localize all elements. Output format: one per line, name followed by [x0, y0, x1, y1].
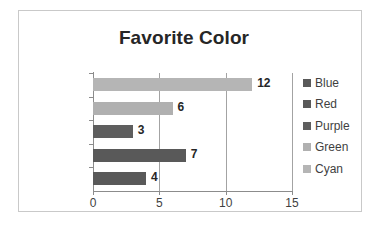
- x-axis-tick-label: 15: [285, 196, 298, 210]
- legend-swatch-icon: [303, 79, 311, 87]
- plot-area: 05101512Cyan6Green3Purple7Red4Blue: [93, 73, 292, 191]
- bar-value-label: 7: [191, 147, 198, 161]
- y-axis-tick: [89, 120, 93, 121]
- y-axis-tick: [89, 73, 93, 74]
- legend-item-red[interactable]: Red: [303, 94, 359, 116]
- bar-cyan[interactable]: [93, 78, 252, 91]
- chart-legend: BlueRedPurpleGreenCyan: [303, 72, 359, 180]
- y-axis-tick: [89, 167, 93, 168]
- legend-item-purple[interactable]: Purple: [303, 115, 359, 137]
- bar-purple[interactable]: [93, 125, 133, 138]
- legend-item-label: Red: [315, 97, 337, 111]
- bar-row: 6Green: [93, 97, 292, 121]
- legend-item-blue[interactable]: Blue: [303, 72, 359, 94]
- bar-value-label: 3: [138, 123, 145, 137]
- legend-swatch-icon: [303, 143, 311, 151]
- bar-row: 7Red: [93, 144, 292, 168]
- bar-row: 3Purple: [93, 120, 292, 144]
- chart-title: Favorite Color: [59, 27, 309, 49]
- x-axis-tick: [93, 191, 94, 195]
- bar-green[interactable]: [93, 102, 173, 115]
- bar-value-label: 4: [151, 170, 158, 184]
- x-axis-tick-label: 10: [219, 196, 232, 210]
- y-axis-tick: [89, 97, 93, 98]
- bar-row: 4Blue: [93, 167, 292, 191]
- legend-item-green[interactable]: Green: [303, 137, 359, 159]
- x-axis-tick-label: 5: [156, 196, 163, 210]
- bar-row: 12Cyan: [93, 73, 292, 97]
- x-axis-line: [93, 191, 293, 192]
- legend-swatch-icon: [303, 122, 311, 130]
- legend-swatch-icon: [303, 100, 311, 108]
- legend-item-label: Cyan: [315, 162, 343, 176]
- legend-item-cyan[interactable]: Cyan: [303, 158, 359, 180]
- y-axis-tick: [89, 144, 93, 145]
- x-axis-tick: [159, 191, 160, 195]
- legend-swatch-icon: [303, 165, 311, 173]
- legend-item-label: Purple: [315, 119, 350, 133]
- bar-red[interactable]: [93, 149, 186, 162]
- gridline: [292, 73, 293, 191]
- bar-value-label: 12: [257, 76, 270, 90]
- bar-blue[interactable]: [93, 172, 146, 185]
- x-axis-tick: [292, 191, 293, 195]
- x-axis-tick: [226, 191, 227, 195]
- legend-item-label: Green: [315, 140, 348, 154]
- legend-item-label: Blue: [315, 76, 339, 90]
- bar-value-label: 6: [178, 100, 185, 114]
- x-axis-tick-label: 0: [90, 196, 97, 210]
